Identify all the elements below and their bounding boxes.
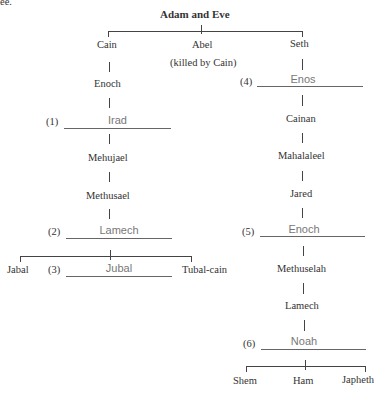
connector: [109, 209, 110, 219]
answer-3: Jubal: [66, 262, 172, 274]
connector: [302, 59, 303, 70]
answer-blank-6[interactable]: [261, 349, 366, 350]
node-enoch-cain: Enoch: [94, 78, 121, 89]
node-mahalaleel: Mahalaleel: [278, 150, 325, 161]
answer-2: Lamech: [66, 224, 172, 236]
answer-blank-4[interactable]: [257, 86, 363, 87]
connector: [365, 366, 366, 372]
connector: [20, 256, 21, 262]
connector: [302, 31, 303, 37]
connector: [201, 25, 202, 34]
node-shem: Shem: [233, 375, 257, 386]
blank-number-2: (2): [48, 226, 60, 237]
connector: [108, 31, 109, 37]
answer-1: Irad: [64, 114, 171, 126]
connector: [303, 283, 304, 294]
header-fragment: ee.: [0, 0, 12, 7]
answer-6: Noah: [261, 335, 347, 347]
answer-blank-1[interactable]: [64, 128, 171, 129]
answer-blank-2[interactable]: [66, 238, 172, 239]
node-cain: Cain: [97, 39, 117, 50]
connector: [109, 98, 110, 108]
connector: [110, 250, 111, 260]
node-ham: Ham: [293, 375, 313, 386]
answer-blank-5[interactable]: [260, 236, 365, 237]
node-methuselah: Methuselah: [277, 263, 326, 274]
connector: [109, 62, 110, 72]
connector: [302, 171, 303, 181]
abel-note: (killed by Cain): [170, 57, 237, 68]
node-mehujael: Mehujael: [88, 152, 128, 163]
lamech-children-branch: [20, 256, 192, 257]
root-node: Adam and Eve: [160, 8, 230, 20]
node-tubal-cain: Tubal-cain: [182, 264, 227, 275]
connector: [302, 133, 303, 143]
node-seth: Seth: [290, 38, 309, 49]
connector: [302, 208, 303, 218]
answer-4: Enos: [257, 73, 349, 85]
blank-number-5: (5): [242, 226, 254, 237]
node-methusael: Methusael: [86, 190, 130, 201]
connector: [304, 320, 305, 331]
noah-children-branch: [246, 366, 366, 367]
root-branch-line: [108, 31, 303, 32]
node-lamech-seth: Lamech: [285, 300, 319, 311]
node-jared: Jared: [290, 188, 312, 199]
node-japheth: Japheth: [342, 374, 374, 385]
answer-5: Enoch: [260, 223, 348, 235]
blank-number-3: (3): [48, 264, 60, 275]
connector: [302, 95, 303, 106]
connector: [303, 246, 304, 256]
answer-blank-3[interactable]: [66, 276, 172, 277]
blank-number-1: (1): [46, 116, 58, 127]
connector: [109, 172, 110, 182]
connector: [246, 366, 247, 372]
node-cainan: Cainan: [286, 113, 316, 124]
blank-number-4: (4): [240, 76, 252, 87]
connector: [305, 360, 306, 370]
node-jabal: Jabal: [7, 264, 29, 275]
node-abel: Abel: [192, 39, 212, 50]
connector: [109, 134, 110, 144]
blank-number-6: (6): [243, 338, 255, 349]
connector: [191, 256, 192, 262]
